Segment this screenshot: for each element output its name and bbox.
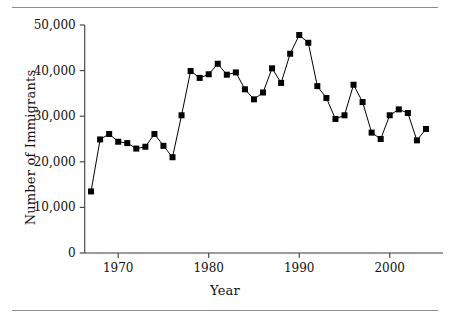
data-point-marker [278,80,284,86]
data-point-marker [296,32,302,38]
data-point-marker [88,188,94,194]
data-point-marker [215,61,221,67]
y-axis: 010,00020,00030,00040,00050,000 [34,18,85,260]
data-point-marker [142,144,148,150]
data-point-marker [188,68,194,74]
data-point-marker [396,106,402,112]
data-point-marker [332,116,338,122]
line-chart: 010,00020,00030,00040,00050,000 19701980… [0,0,450,317]
data-point-marker [323,95,329,101]
x-tick-label: 1980 [193,261,224,275]
data-point-marker [106,131,112,137]
data-point-marker [260,89,266,95]
data-point-marker [179,112,185,118]
data-point-marker [387,112,393,118]
figure-container: 010,00020,00030,00040,00050,000 19701980… [0,0,450,317]
data-point-marker [242,86,248,92]
data-point-marker [305,40,311,46]
x-tick-label: 2000 [374,261,405,275]
x-tick-label: 1970 [103,261,134,275]
data-point-marker [115,139,121,145]
data-point-marker [405,110,411,116]
data-point-marker [224,72,230,78]
data-point-marker [287,51,293,57]
y-tick-label: 50,000 [34,18,76,32]
y-tick-label: 30,000 [34,109,76,123]
data-point-marker [151,131,157,137]
data-point-marker [160,143,166,149]
y-axis-title: Number of Immigrants [23,48,38,248]
data-point-marker [251,96,257,102]
x-axis: 1970198019902000 [85,253,443,275]
data-point-marker [206,71,212,77]
x-tick-label: 1990 [284,261,315,275]
data-point-marker [314,83,320,89]
y-tick-label: 10,000 [34,200,76,214]
data-point-marker [360,99,366,105]
data-point-marker [233,69,239,75]
data-point-marker [133,146,139,152]
data-point-marker [97,136,103,142]
data-point-marker [369,130,375,136]
data-point-marker [269,65,275,71]
data-point-marker [124,140,130,146]
y-tick-label: 40,000 [34,64,76,78]
immigrants-series [88,32,429,194]
data-point-marker [197,75,203,81]
data-point-marker [378,136,384,142]
y-tick-label: 0 [68,246,76,260]
data-point-marker [341,112,347,118]
data-point-marker [170,154,176,160]
data-point-marker [423,126,429,132]
x-axis-title: Year [0,283,450,298]
data-point-marker [414,137,420,143]
data-point-marker [351,82,357,88]
y-tick-label: 20,000 [34,155,76,169]
